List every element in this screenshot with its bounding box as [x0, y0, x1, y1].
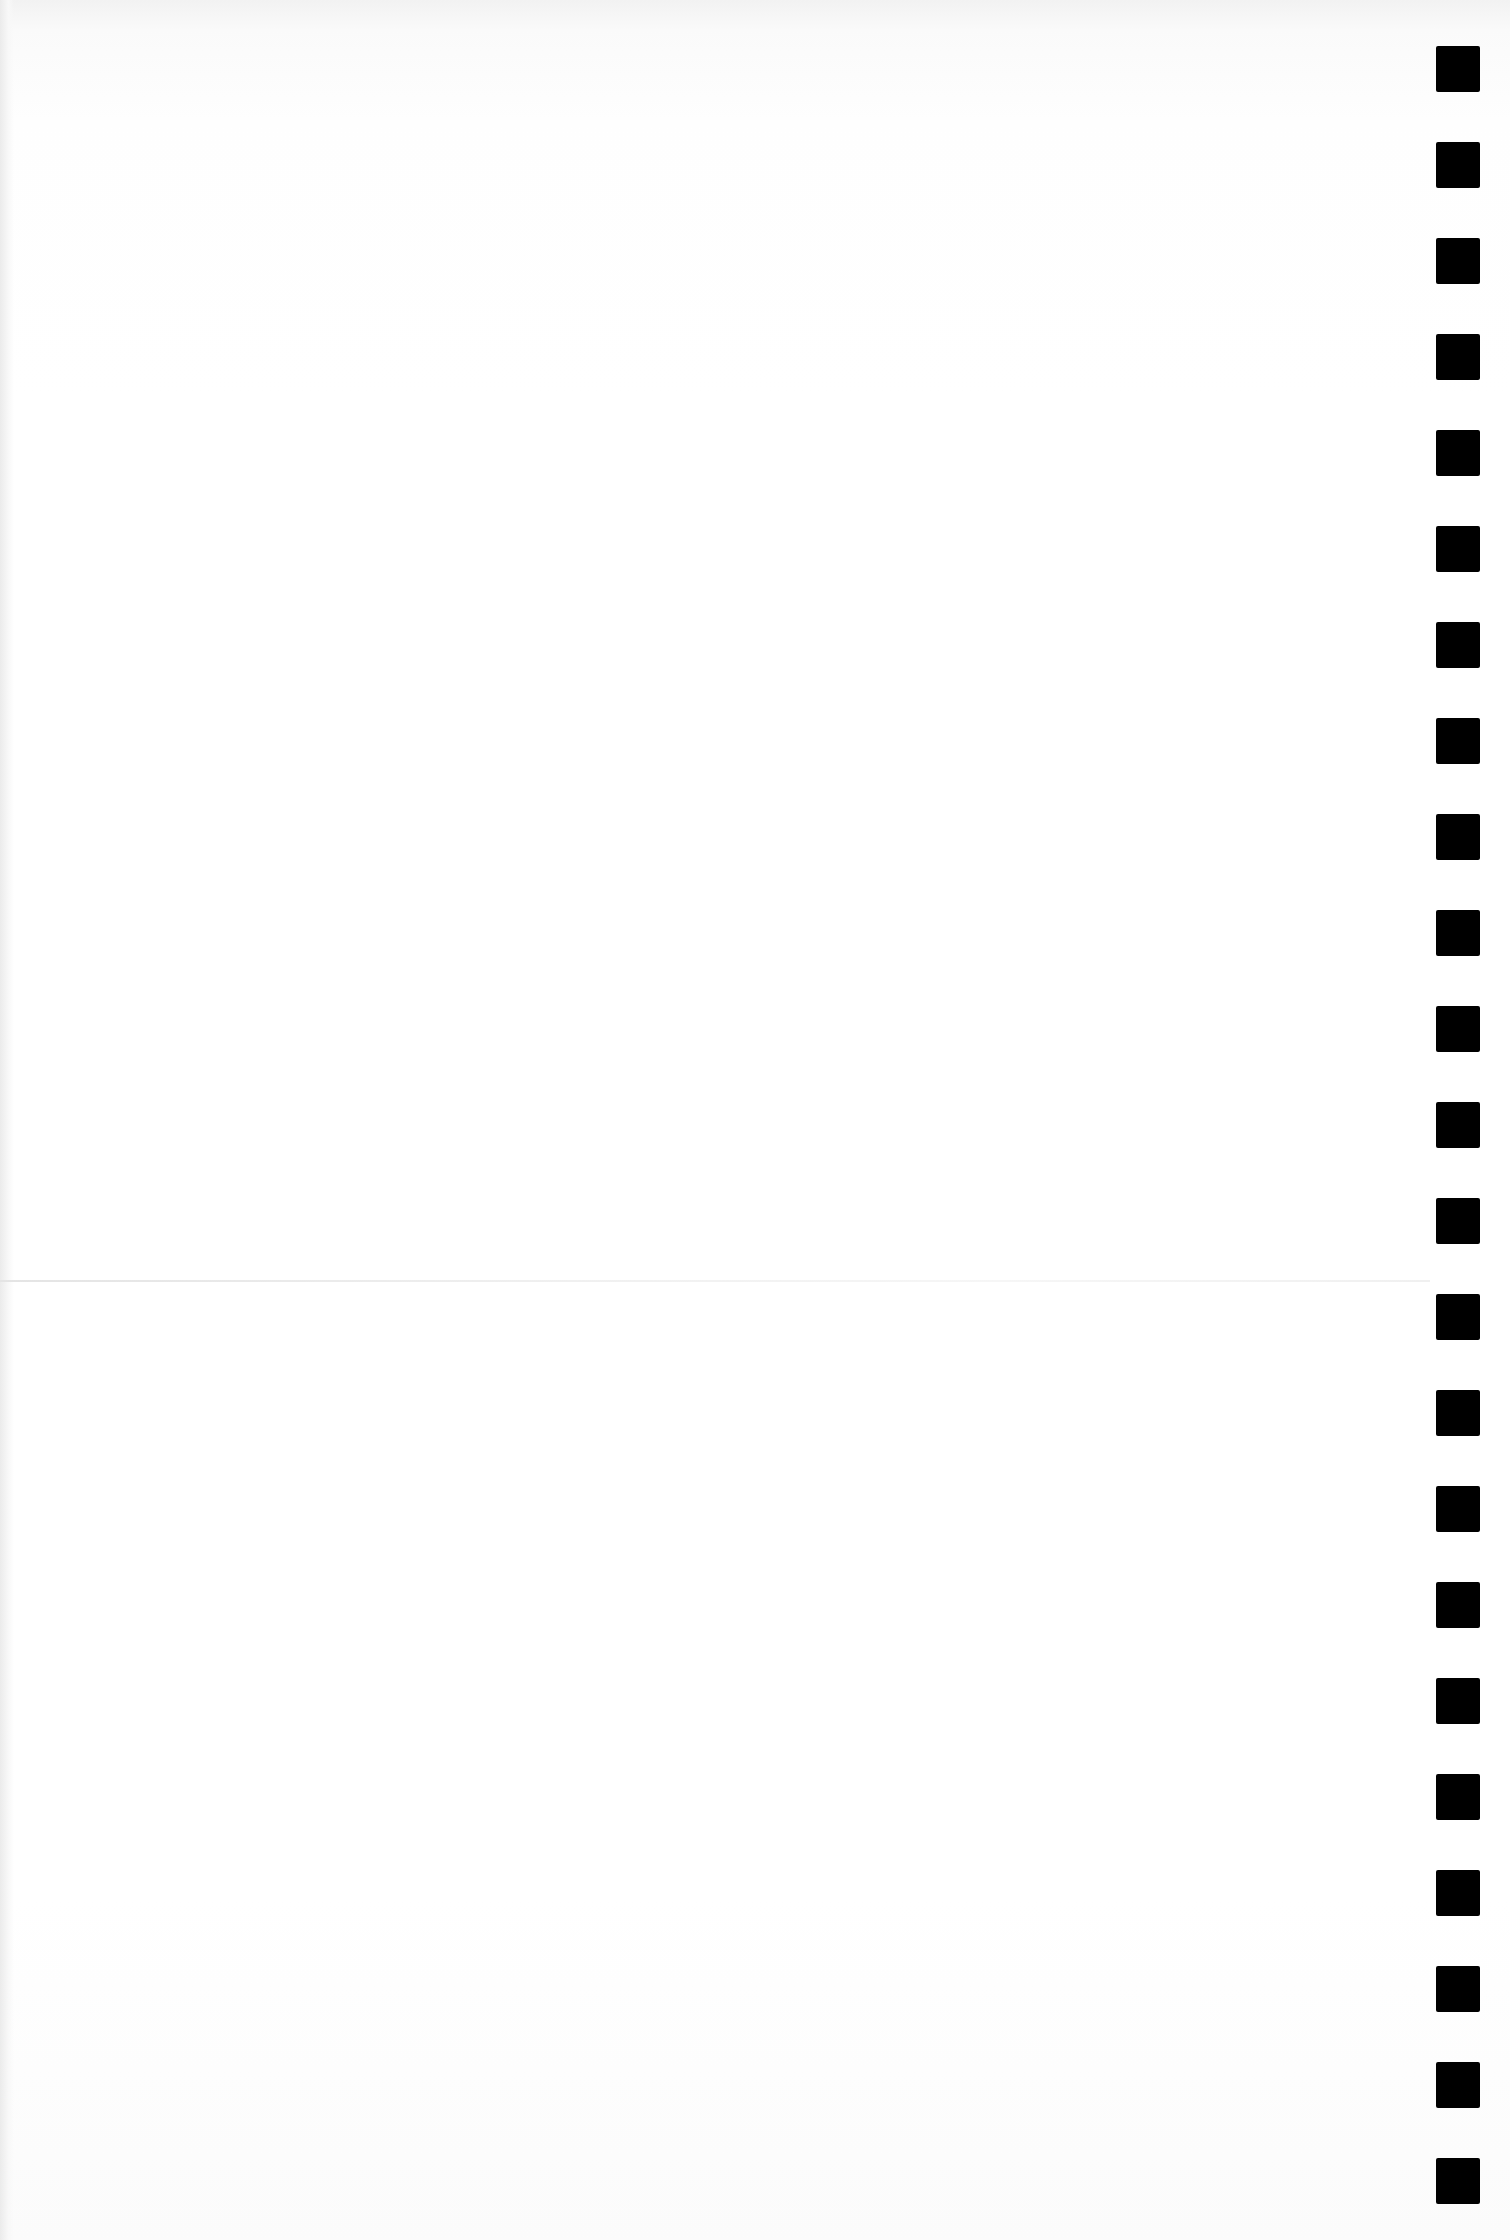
- registration-mark-square: [1436, 1870, 1480, 1916]
- registration-mark-square: [1436, 1294, 1480, 1340]
- registration-mark-square: [1436, 2158, 1480, 2204]
- registration-mark-square: [1436, 814, 1480, 860]
- registration-mark-square: [1436, 1678, 1480, 1724]
- registration-marks-column: [1436, 46, 1480, 2240]
- header-bleed-through-text: [22, 8, 1402, 38]
- fold-crease-line: [0, 1280, 1430, 1282]
- registration-mark-square: [1436, 1774, 1480, 1820]
- registration-mark-square: [1436, 718, 1480, 764]
- corner-scan-noise: [6, 2170, 66, 2184]
- registration-mark-square: [1436, 334, 1480, 380]
- scan-left-edge-shadow: [0, 0, 14, 2240]
- registration-mark-square: [1436, 430, 1480, 476]
- registration-mark-square: [1436, 622, 1480, 668]
- faint-text-line: [24, 72, 544, 86]
- registration-mark-square: [1436, 46, 1480, 92]
- registration-mark-square: [1436, 2062, 1480, 2108]
- scanned-page: [0, 0, 1510, 2240]
- registration-mark-square: [1436, 910, 1480, 956]
- registration-mark-square: [1436, 1582, 1480, 1628]
- registration-mark-square: [1436, 1966, 1480, 2012]
- registration-mark-square: [1436, 142, 1480, 188]
- registration-mark-square: [1436, 1006, 1480, 1052]
- registration-mark-square: [1436, 1102, 1480, 1148]
- registration-mark-square: [1436, 1390, 1480, 1436]
- registration-mark-square: [1436, 1486, 1480, 1532]
- registration-mark-square: [1436, 238, 1480, 284]
- registration-mark-square: [1436, 1198, 1480, 1244]
- registration-mark-square: [1436, 526, 1480, 572]
